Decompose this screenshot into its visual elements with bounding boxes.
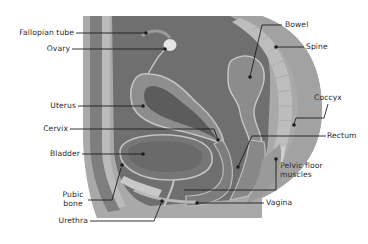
label-ovary: Ovary xyxy=(47,44,70,53)
label-uterus: Uterus xyxy=(50,101,76,110)
label-vagina: Vagina xyxy=(266,198,292,207)
label-pubic-bone-line1: Pubic xyxy=(60,190,86,199)
label-coccyx: Coccyx xyxy=(314,93,342,102)
label-pubic-bone: Pubic bone xyxy=(60,190,86,208)
label-spine: Spine xyxy=(306,42,328,51)
label-cervix: Cervix xyxy=(43,124,68,133)
label-bladder: Bladder xyxy=(50,149,80,158)
label-bowel: Bowel xyxy=(285,20,308,29)
label-rectum: Rectum xyxy=(327,131,357,140)
label-pelvic-floor-muscles: Pelvic floor muscles xyxy=(280,161,323,179)
label-pelvic-floor-line2: muscles xyxy=(280,170,323,179)
label-pelvic-floor-line1: Pelvic floor xyxy=(280,161,323,170)
label-pubic-bone-line2: bone xyxy=(60,199,86,208)
label-fallopian-tube: Fallopian tube xyxy=(19,28,74,37)
label-urethra: Urethra xyxy=(59,216,88,225)
